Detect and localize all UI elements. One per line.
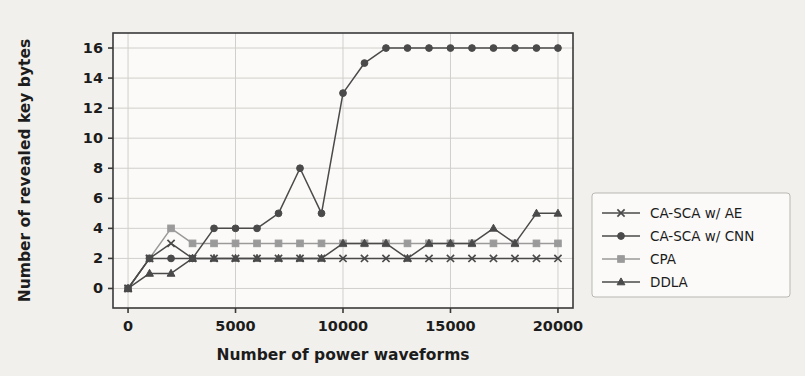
legend-label: CA-SCA w/ CNN: [650, 228, 754, 244]
chart-figure: 050001000015000200000246810121416 Number…: [0, 0, 805, 376]
x-tick-label: 20000: [533, 318, 583, 334]
y-tick-label: 12: [83, 100, 103, 116]
legend-label: DDLA: [650, 274, 689, 290]
legend: CA-SCA w/ AECA-SCA w/ CNNCPADDLA: [592, 193, 790, 297]
x-tick-label: 0: [123, 318, 133, 334]
x-tick-label: 10000: [318, 318, 368, 334]
y-tick-label: 8: [93, 160, 103, 176]
line-chart-svg: 050001000015000200000246810121416 Number…: [0, 0, 805, 376]
y-axis-label: Number of revealed key bytes: [16, 39, 34, 302]
y-tick-label: 2: [93, 250, 103, 266]
legend-label: CA-SCA w/ AE: [650, 205, 742, 221]
y-tick-label: 0: [93, 280, 103, 296]
x-tick-label: 5000: [215, 318, 255, 334]
y-tick-label: 10: [83, 130, 103, 146]
x-axis-label: Number of power waveforms: [216, 346, 469, 364]
x-tick-label: 15000: [425, 318, 475, 334]
y-tick-label: 16: [83, 40, 103, 56]
y-tick-label: 14: [83, 70, 103, 86]
legend-label: CPA: [650, 251, 677, 267]
y-tick-label: 4: [93, 220, 103, 236]
y-tick-label: 6: [93, 190, 103, 206]
